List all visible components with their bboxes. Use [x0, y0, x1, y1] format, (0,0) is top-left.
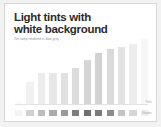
chart-bar — [95, 53, 102, 104]
color-swatch — [95, 110, 102, 116]
chart-bar — [26, 82, 33, 104]
color-swatch — [84, 110, 91, 116]
chart-bar — [49, 73, 56, 104]
chart-bar — [38, 73, 45, 104]
axis-caption-label: Tints — [146, 100, 152, 104]
chart-bar — [118, 47, 125, 104]
page-title: Light tints with white background — [14, 12, 124, 35]
color-swatch — [72, 110, 79, 116]
color-swatch — [61, 110, 68, 116]
bar-chart — [15, 39, 148, 104]
slide-card: Light tints with white background Tint r… — [4, 3, 157, 122]
chart-bar — [107, 49, 114, 104]
chart-bar — [61, 73, 68, 104]
color-swatch — [26, 110, 33, 116]
color-swatch — [129, 110, 136, 116]
chart-axis-line — [15, 104, 148, 105]
swatch-strip — [15, 110, 148, 116]
color-swatch — [38, 110, 45, 116]
color-swatch — [49, 110, 56, 116]
chart-bar — [129, 44, 136, 104]
chart-bar — [72, 68, 79, 104]
title-block: Light tints with white background Tint r… — [14, 12, 124, 41]
chart-bar — [84, 60, 91, 104]
color-swatch — [15, 110, 22, 116]
chart-plot-area — [15, 39, 148, 104]
swatch-caption-label: Shades — [142, 111, 152, 115]
color-swatch — [118, 110, 125, 116]
chart-bar — [141, 39, 148, 104]
color-swatch — [107, 110, 114, 116]
